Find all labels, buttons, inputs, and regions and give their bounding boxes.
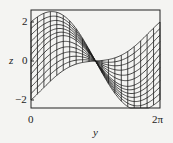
surface-mesh	[31, 12, 160, 108]
y-axis-label: y	[93, 127, 98, 138]
z-axis-label: z	[9, 55, 13, 66]
x-tick-label-0: 0	[28, 114, 34, 125]
y-tick-label-neg2: −2	[15, 94, 27, 105]
y-tick-label-2: 2	[22, 16, 28, 27]
y-tick-label-0: 0	[22, 55, 28, 66]
x-tick-label-2pi: 2π	[152, 114, 163, 125]
